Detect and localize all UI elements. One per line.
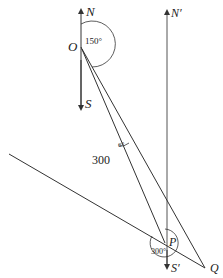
- south-label-O: S: [85, 96, 92, 111]
- diagram-svg: N S O 150° N′ S′ 6° 300 300° P Q: [0, 0, 223, 278]
- length-label-OP: 300: [92, 153, 110, 167]
- point-label-P: P: [168, 235, 177, 249]
- point-label-Q: Q: [210, 261, 219, 275]
- bearing-diagram: N S O 150° N′ S′ 6° 300 300° P Q: [0, 0, 223, 278]
- south-label-P: S′: [171, 261, 180, 275]
- north-label-P: N′: [170, 6, 182, 20]
- angle-label-300: 300°: [151, 247, 166, 256]
- angle-label-6: 6°: [118, 141, 125, 149]
- angle-label-150: 150°: [85, 36, 103, 46]
- point-label-O: O: [68, 39, 78, 54]
- north-label-O: N: [85, 4, 96, 19]
